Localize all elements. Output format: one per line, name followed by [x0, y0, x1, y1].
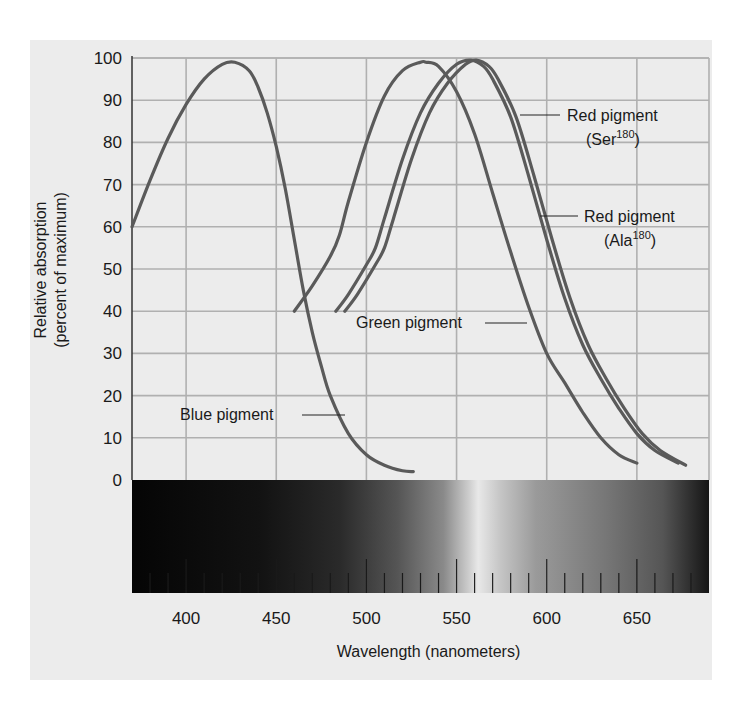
y-tick-label: 80: [103, 133, 122, 152]
y-tick-label: 20: [103, 387, 122, 406]
x-tick-label: 650: [623, 609, 651, 628]
absorption-chart: 0102030405060708090100 40045050055060065…: [0, 0, 745, 701]
y-tick-label: 90: [103, 91, 122, 110]
red-ala180-label: Red pigment: [584, 208, 675, 225]
y-tick-label: 50: [103, 260, 122, 279]
y-axis-title-line2: (percent of maximum): [52, 192, 69, 348]
red-ala180-sublabel: (Ala180): [604, 229, 656, 249]
x-tick-label: 500: [352, 609, 380, 628]
red-ser180-sublabel: (Ser180): [586, 128, 640, 148]
x-tick-label: 450: [262, 609, 290, 628]
y-tick-label: 70: [103, 176, 122, 195]
y-tick-label: 0: [113, 471, 122, 490]
y-tick-label: 30: [103, 344, 122, 363]
x-tick-label: 600: [533, 609, 561, 628]
red-ser180-label: Red pigment: [567, 107, 658, 124]
y-tick-label: 40: [103, 302, 122, 321]
y-tick-label: 100: [94, 49, 122, 68]
x-tick-label: 550: [442, 609, 470, 628]
green-pigment-label: Green pigment: [356, 314, 462, 331]
y-tick-label: 60: [103, 218, 122, 237]
y-axis: 0102030405060708090100: [94, 49, 132, 490]
x-axis: 400450500550600650: [172, 609, 651, 628]
x-tick-label: 400: [172, 609, 200, 628]
x-axis-title: Wavelength (nanometers): [337, 643, 521, 660]
blue-pigment-label: Blue pigment: [180, 406, 274, 423]
y-tick-label: 10: [103, 429, 122, 448]
curve-labels: Blue pigmentGreen pigmentRed pigment(Ser…: [180, 107, 675, 423]
y-axis-title-line1: Relative absorption: [32, 202, 49, 339]
y-axis-title: Relative absorption (percent of maximum): [32, 192, 69, 348]
